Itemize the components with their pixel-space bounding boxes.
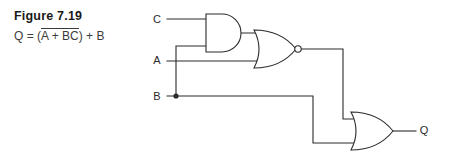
figure-container: Figure 7.19 Q = (A + BC) + B C A B Q: [0, 0, 450, 163]
nor-gate-body: [254, 30, 296, 68]
nor-inversion-bubble: [295, 46, 301, 52]
or-gate: [351, 112, 393, 150]
input-label-a: A: [153, 54, 161, 66]
output-label-q: Q: [420, 124, 429, 136]
junction-dot-b: [173, 93, 178, 98]
input-label-b: B: [153, 90, 160, 102]
and-gate: [206, 14, 241, 52]
wire-b-to-or: [167, 96, 353, 143]
input-label-c: C: [153, 13, 161, 25]
logic-circuit-diagram: C A B Q: [0, 0, 450, 163]
wire-b-to-and: [176, 46, 206, 96]
wire-nor-to-or: [300, 49, 353, 119]
